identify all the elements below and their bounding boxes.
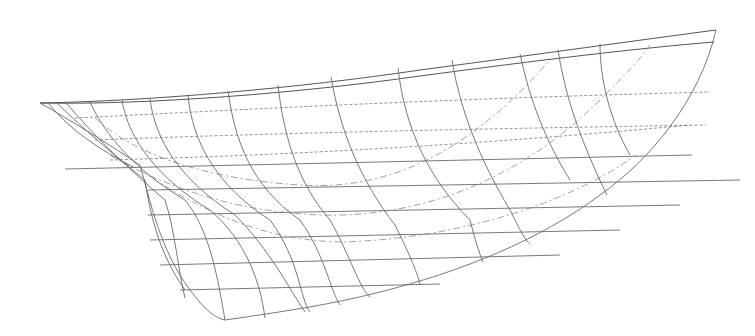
dashed-waterline-1 — [95, 125, 706, 140]
station-6 — [188, 95, 310, 312]
waterline — [65, 155, 692, 169]
diagonal-lines — [95, 45, 650, 242]
sheer-line-0 — [40, 30, 716, 103]
station-3 — [90, 102, 225, 320]
station-14 — [600, 44, 630, 155]
hull-lines-drawing — [0, 0, 755, 336]
hull-outline — [40, 30, 716, 320]
waterline-lower-3 — [160, 255, 560, 265]
station-4 — [122, 100, 265, 318]
station-13 — [558, 50, 607, 195]
station-lines — [48, 44, 630, 320]
waterline-lower-0 — [148, 180, 740, 190]
sheer-line-1 — [40, 42, 714, 103]
dashed-waterline-2 — [110, 125, 690, 160]
station-2 — [66, 103, 185, 298]
hull-lines-svg — [0, 0, 755, 336]
waterline-lower-2 — [150, 230, 620, 240]
sheer-lines — [40, 30, 716, 103]
hull-outline-0 — [40, 30, 716, 320]
station-9 — [331, 77, 420, 284]
waterline-0 — [65, 155, 692, 169]
dashed-waterlines — [75, 92, 710, 160]
dashed-waterline-0 — [75, 92, 710, 118]
station-11 — [452, 60, 530, 244]
